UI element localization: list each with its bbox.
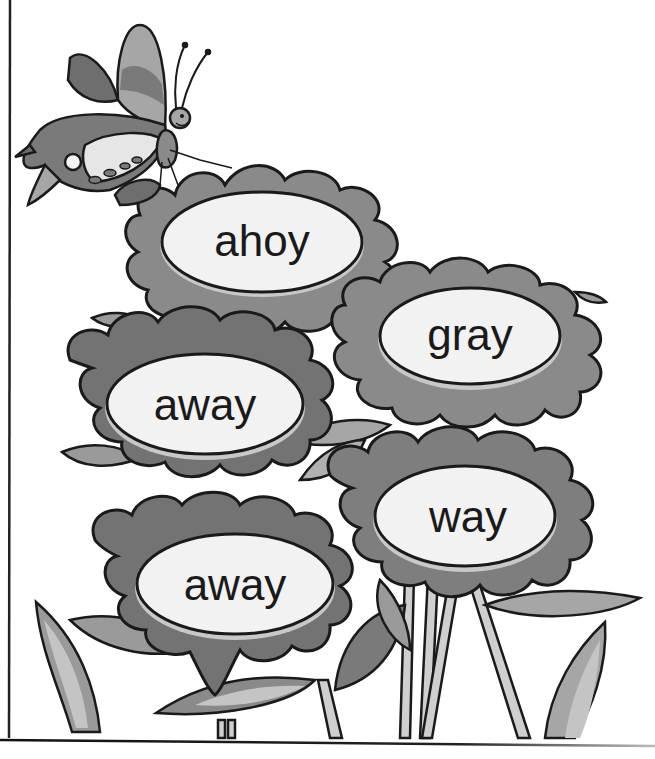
flower-gray: gray	[332, 258, 601, 427]
bottom-border-line	[0, 740, 655, 746]
flower-way: way	[328, 427, 593, 597]
word-label: way	[428, 492, 507, 541]
word-label: away	[154, 380, 257, 429]
word-label: gray	[427, 310, 513, 359]
word-label: ahoy	[214, 216, 309, 265]
worksheet-illustration: ahoy gray away way away	[0, 0, 655, 759]
word-label: away	[184, 560, 287, 609]
flower-away-lower: away	[93, 492, 352, 695]
left-border-line	[9, 0, 10, 738]
